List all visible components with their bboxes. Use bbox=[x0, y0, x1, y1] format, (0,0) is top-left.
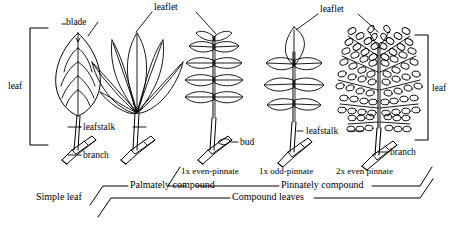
label-leaflet-left: leaflet bbox=[154, 2, 178, 12]
label-leaflet-right: leaflet bbox=[320, 4, 344, 14]
leaf-bracket-left bbox=[30, 28, 48, 145]
simple-leaf-drawing bbox=[56, 33, 101, 164]
label-leaf-left: leaf bbox=[8, 81, 22, 91]
odd-pinnate-leaf-drawing bbox=[264, 27, 324, 167]
label-branch-right: branch bbox=[390, 147, 416, 157]
caption-bipinnate: 2x even pinnate bbox=[336, 166, 393, 176]
label-leaf-right: leaf bbox=[432, 83, 446, 93]
category-pinnately-compound: Pinnately compound bbox=[281, 180, 364, 190]
label-leafstalk-right: leafstalk bbox=[306, 126, 338, 136]
even-pinnate-leaf-drawing bbox=[185, 31, 243, 164]
palmately-compound-leaf-drawing bbox=[92, 33, 183, 164]
leaf-diagram-figure: blade leaflet leaflet leaf leaf leafstal… bbox=[0, 0, 454, 243]
diagram-linework bbox=[0, 0, 454, 243]
caption-even-pinnate: 1x even-pinnate bbox=[181, 166, 239, 176]
label-blade: blade bbox=[66, 17, 87, 27]
caption-odd-pinnate: 1x odd-pinnate bbox=[259, 166, 313, 176]
category-compound-leaves: Compound leaves bbox=[232, 192, 304, 202]
label-bud: bud bbox=[240, 137, 254, 147]
category-simple-leaf: Simple leaf bbox=[36, 192, 82, 202]
label-branch-left: branch bbox=[83, 150, 109, 160]
category-palmately-compound: Palmately compound bbox=[130, 180, 215, 190]
label-leafstalk-left: leafstalk bbox=[83, 122, 115, 132]
